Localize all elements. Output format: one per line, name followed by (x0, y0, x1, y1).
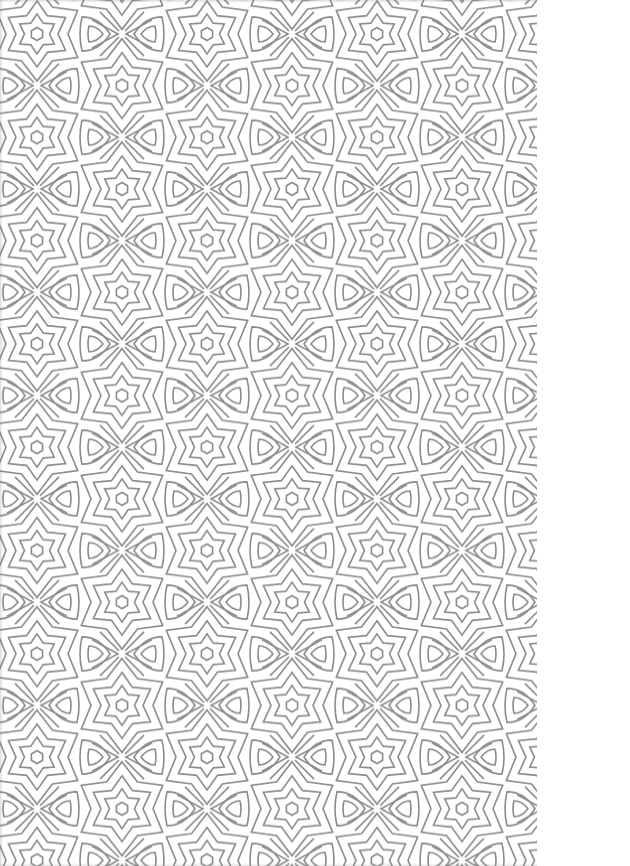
star-pattern-svg (0, 0, 537, 866)
blank-margin (537, 0, 630, 866)
pattern-fill (0, 0, 537, 866)
geometric-pattern-image: Seamless geometric pattern of six-pointe… (0, 0, 537, 866)
